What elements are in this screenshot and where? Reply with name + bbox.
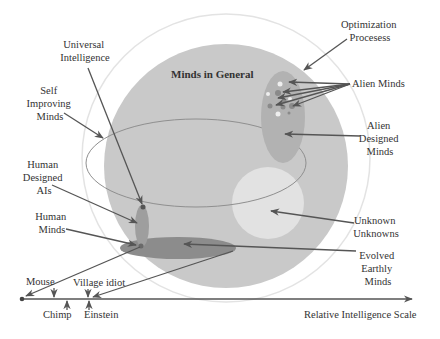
alien-designed-minds-label: Alien Designed Minds: [359, 120, 401, 157]
human-minds-to-scale-arrow: [26, 247, 140, 296]
village-idiot-label: Village idiot: [73, 277, 125, 288]
scale-origin-point: [20, 297, 25, 302]
evolved-earthly-minds-label: Evolved Earthly Minds: [359, 250, 397, 287]
optimization-processes-label: Optimization Procesess: [341, 19, 399, 43]
human-designed-ais-ellipse: [135, 205, 149, 247]
minds-in-general-label: Minds in General: [171, 68, 254, 80]
chimp-label: Chimp: [43, 309, 72, 320]
self-improving-minds-label: Self Improving Minds: [27, 85, 74, 122]
universal-intelligence-point: [141, 205, 146, 210]
alien-minds-label: Alien Minds: [352, 78, 405, 89]
human-minds-label: Human Minds: [35, 211, 69, 235]
minds-diagram: Minds in General Optimization Procesess …: [0, 0, 440, 339]
scale-axis-label: Relative Intelligence Scale: [304, 309, 417, 320]
optimization-processes-arrow: [304, 39, 347, 70]
unknown-unknowns-label: Unknown Unknowns: [353, 215, 399, 239]
einstein-label: Einstein: [84, 309, 119, 320]
human-designed-ais-label: Human Designed AIs: [23, 159, 65, 196]
alien-designed-minds-ellipse: [261, 71, 305, 163]
mouse-label: Mouse: [26, 276, 55, 287]
universal-intelligence-label: Universal Intelligence: [60, 39, 110, 63]
